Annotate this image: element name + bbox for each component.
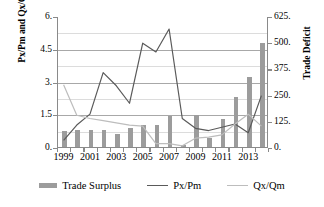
x-tick-label: 1999 xyxy=(50,151,78,162)
y-tick-mark xyxy=(268,96,272,97)
x-tick-label: 2007 xyxy=(155,151,183,162)
y-tick-label-secondary: 500. xyxy=(274,37,314,47)
line-px-pm xyxy=(64,29,262,140)
x-tick-label: 2001 xyxy=(76,151,104,162)
y-tick-mark xyxy=(268,69,272,70)
y-tick-mark xyxy=(268,17,272,18)
legend-label: Qx/Qm xyxy=(253,180,285,191)
y-tick-label-secondary: 250. xyxy=(274,90,314,100)
legend-label: Trade Surplus xyxy=(62,180,121,191)
x-tick-label: 2013 xyxy=(234,151,262,162)
y-tick-label-primary: 1.5 xyxy=(12,109,52,119)
legend-item-trade-surplus: Trade Surplus xyxy=(39,180,121,191)
legend-item-px-pm: Px/Pm xyxy=(147,180,201,191)
y-tick-label-secondary: 375. xyxy=(274,63,314,73)
legend-item-qx-qm: Qx/Qm xyxy=(227,180,285,191)
y-tick-label-primary: 6. xyxy=(12,11,52,21)
y-tick-label-primary: 0. xyxy=(12,142,52,152)
x-tick-label: 2011 xyxy=(208,151,236,162)
y-tick-mark xyxy=(268,43,272,44)
line-swatch-dark-icon xyxy=(147,185,168,186)
y-tick-mark xyxy=(268,122,272,123)
y-tick-label-secondary: 125. xyxy=(274,116,314,126)
line-swatch-light-icon xyxy=(227,185,248,186)
y-tick-label-secondary: 0. xyxy=(274,142,314,152)
bar-swatch-icon xyxy=(39,183,57,188)
x-tick-mark xyxy=(268,148,269,152)
line-qx-qm xyxy=(64,85,262,146)
x-tick-label: 2005 xyxy=(129,151,157,162)
y-tick-label-secondary: 625. xyxy=(274,11,314,21)
x-tick-label: 2009 xyxy=(181,151,209,162)
line-series-group xyxy=(57,17,268,148)
y-tick-label-primary: 3. xyxy=(12,77,52,87)
chart-legend: Trade Surplus Px/Pm Qx/Qm xyxy=(0,180,324,191)
y-tick-label-primary: 4.5 xyxy=(12,44,52,54)
legend-label: Px/Pm xyxy=(173,180,201,191)
x-tick-label: 2003 xyxy=(102,151,130,162)
chart-container: Px/Pm and Qx/Qm Trade Deficit 0.1.53.4.5… xyxy=(0,0,324,207)
